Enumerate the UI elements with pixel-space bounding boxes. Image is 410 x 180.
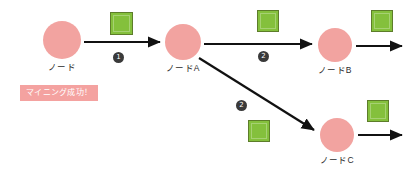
node-circle-nodeC[interactable] (320, 118, 354, 152)
node-label-node: ノード (48, 60, 76, 72)
node-label-nodeB: ノードB (318, 63, 351, 75)
node-label-nodeC: ノードC (320, 153, 354, 165)
block-square-block-3[interactable] (371, 10, 393, 32)
mining-success-tag: マイニング成功！ (20, 85, 98, 101)
step-badge-badge-2-bottom: 2 (236, 100, 247, 111)
node-circle-nodeA[interactable] (165, 24, 201, 60)
block-square-block-4[interactable] (248, 120, 270, 142)
node-circle-node[interactable] (43, 21, 81, 59)
diagram-canvas: ノードノードAノードBノードC 122 マイニング成功！ (0, 0, 410, 180)
step-badge-badge-1: 1 (113, 52, 124, 63)
node-circle-nodeB[interactable] (318, 28, 352, 62)
block-square-block-5[interactable] (367, 100, 389, 122)
step-badge-badge-2-top: 2 (258, 51, 269, 62)
block-square-block-1[interactable] (110, 12, 133, 35)
block-square-block-2[interactable] (257, 10, 279, 32)
node-label-nodeA: ノードA (166, 61, 199, 73)
